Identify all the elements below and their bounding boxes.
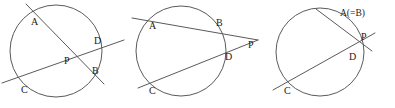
label-point-c-3: C bbox=[284, 85, 291, 96]
geometry-figure: A D P B C A B P D C A(=B) P D C bbox=[0, 0, 395, 108]
label-point-d-3: D bbox=[349, 51, 356, 62]
secant-cd-p-3 bbox=[273, 33, 375, 90]
diagram-tangent-and-secant: A(=B) P D C bbox=[0, 0, 395, 108]
label-point-a-equals-b-3: A(=B) bbox=[340, 8, 365, 19]
label-point-p-3: P bbox=[361, 31, 367, 42]
